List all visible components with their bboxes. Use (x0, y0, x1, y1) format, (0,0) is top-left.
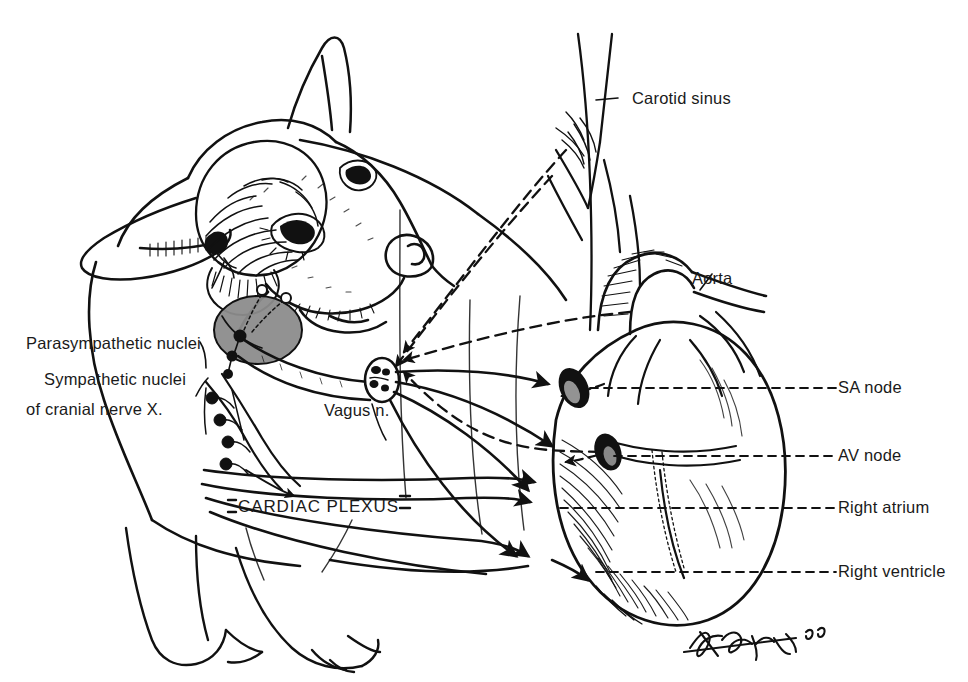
label-carotid-sinus: Carotid sinus (632, 88, 731, 109)
vagus-nerve-trunk (238, 340, 370, 400)
anatomical-figure: Parasympathetic nuclei of cranial nerve … (0, 0, 968, 682)
cardiac-plexus-efferent-fibers (390, 371, 552, 557)
artist-signature (684, 628, 825, 660)
label-sa-node: SA node (838, 377, 902, 398)
label-parasympathetic-nuclei-line1: Parasympathetic nuclei (26, 332, 201, 354)
label-sympathetic-nuclei: Sympathetic nuclei (44, 369, 186, 390)
dog-eye-pupil (280, 220, 315, 244)
nucleus-circle-2 (281, 293, 291, 303)
nucleus-circle-1 (257, 285, 267, 295)
afferent-fibers-dashed (396, 150, 566, 366)
label-right-atrium: Right atrium (838, 497, 929, 518)
ear-canal-shading (150, 237, 206, 256)
label-right-ventricle: Right ventricle (838, 561, 946, 582)
heart-apex-shading (596, 586, 642, 624)
label-cardiac-plexus: CARDIAC PLEXUS (238, 496, 399, 517)
dog-far-eye-pupil (345, 166, 371, 185)
av-node-marker (591, 431, 625, 473)
label-vagus-nerve: Vagus n. (324, 400, 390, 421)
leader-carotid-sinus (596, 98, 618, 100)
coronary-vessel (652, 450, 684, 572)
label-av-node: AV node (838, 445, 901, 466)
vagus-cut-end (365, 358, 399, 402)
right-auricle (608, 336, 660, 404)
leader-lines (560, 388, 836, 572)
carotid-vessels (548, 34, 640, 330)
label-aorta: Aorta (692, 268, 732, 289)
brain-cerebrum (196, 141, 326, 276)
label-parasympathetic-nuclei-line2: of cranial nerve X. (26, 398, 201, 420)
